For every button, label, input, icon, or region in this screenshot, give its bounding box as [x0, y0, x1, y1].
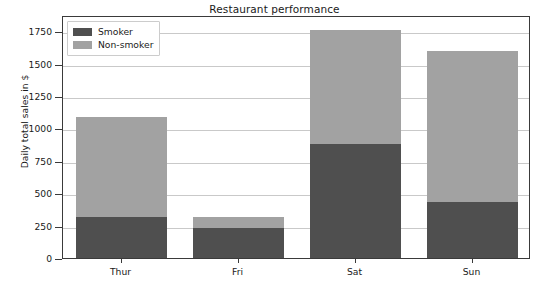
bar-group[interactable] — [193, 16, 284, 258]
y-axis-tick-label: 1250 — [4, 91, 52, 102]
y-axis-tick-label: 500 — [4, 188, 52, 199]
chart-legend[interactable]: SmokerNon-smoker — [67, 21, 160, 56]
x-axis-tick — [121, 259, 122, 263]
bar-segment-smoker[interactable] — [76, 217, 167, 258]
y-axis-tick — [55, 227, 62, 228]
legend-swatch-icon — [73, 41, 92, 49]
x-axis-tick-label-fri: Fri — [198, 266, 278, 277]
x-axis-tick — [472, 259, 473, 263]
x-axis-tick-label-thur: Thur — [81, 266, 161, 277]
y-axis-tick-label: 1750 — [4, 26, 52, 37]
y-axis-tick-label: 0 — [4, 253, 52, 264]
x-axis-tick-label-sat: Sat — [315, 266, 395, 277]
bar-segment-smoker[interactable] — [193, 228, 284, 258]
y-axis-tick-label: 250 — [4, 221, 52, 232]
y-axis-tick-label: 1000 — [4, 123, 52, 134]
bar-segment-non-smoker[interactable] — [427, 51, 518, 203]
legend-swatch-icon — [73, 28, 92, 36]
bar-group[interactable] — [310, 16, 401, 258]
y-axis-tick — [55, 97, 62, 98]
legend-item[interactable]: Smoker — [73, 25, 153, 38]
chart-figure: Restaurant performance Daily total sales… — [0, 0, 549, 287]
y-axis-tick-label: 1500 — [4, 59, 52, 70]
y-axis-tick — [55, 194, 62, 195]
bar-segment-non-smoker[interactable] — [310, 30, 401, 144]
legend-item[interactable]: Non-smoker — [73, 38, 153, 51]
x-axis-tick-label-sun: Sun — [432, 266, 512, 277]
bar-segment-non-smoker[interactable] — [193, 217, 284, 227]
bar-group[interactable] — [427, 16, 518, 258]
bar-segment-smoker[interactable] — [427, 202, 518, 258]
y-axis-tick — [55, 65, 62, 66]
bar-segment-smoker[interactable] — [310, 144, 401, 258]
y-axis-tick — [55, 162, 62, 163]
bar-segment-non-smoker[interactable] — [76, 117, 167, 217]
x-axis-tick — [238, 259, 239, 263]
x-axis-tick — [355, 259, 356, 263]
y-axis-tick — [55, 129, 62, 130]
chart-title: Restaurant performance — [0, 3, 549, 15]
y-axis-tick-label: 750 — [4, 156, 52, 167]
legend-label: Smoker — [98, 26, 133, 37]
y-axis-tick — [55, 32, 62, 33]
legend-label: Non-smoker — [98, 39, 153, 50]
y-axis-tick — [55, 259, 62, 260]
